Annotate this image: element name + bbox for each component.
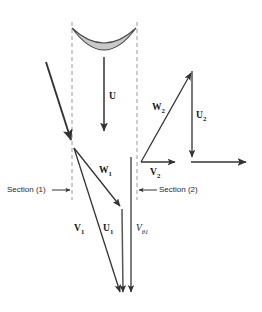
vector-u1-arrow [122, 209, 123, 292]
label-vector-v2: V2 [150, 168, 160, 180]
label-vector-w2: W2 [152, 103, 165, 115]
label-vector-u2: U2 [196, 111, 206, 123]
label-vector-u1: U1 [103, 224, 113, 236]
label-vector-vtheta1: Vθ1 [136, 224, 148, 235]
label-section-1: Section (1) [7, 186, 46, 194]
label-vector-v1: V1 [74, 224, 84, 236]
turbine-bucket-shape [72, 28, 136, 50]
vector-w1-arrow [74, 148, 120, 206]
label-section-2: Section (2) [159, 186, 198, 194]
label-vector-u: U [109, 92, 116, 104]
label-vector-w1: W1 [99, 166, 112, 178]
vector-w2-arrow [141, 73, 191, 162]
velocity-triangle-figure: U W1 V1 U1 Vθ1 W2 U2 V2 Section (1) Sect… [0, 0, 262, 312]
incoming-jet-arrow [46, 62, 71, 140]
vector-v1-arrow [74, 148, 120, 292]
figure-canvas [0, 0, 262, 312]
